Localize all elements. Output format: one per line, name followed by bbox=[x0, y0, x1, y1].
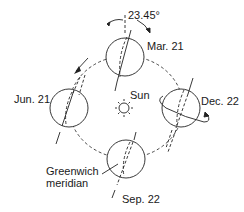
label-sep-22: Sep. 22 bbox=[122, 193, 160, 205]
globe-mar-21 bbox=[106, 15, 150, 91]
label-mar-21: Mar. 21 bbox=[147, 40, 184, 52]
greenwich-meridian-label-line1: Greenwich bbox=[46, 165, 99, 177]
globe-sep-22 bbox=[102, 132, 145, 198]
sun-icon bbox=[115, 99, 133, 117]
label-jun-21: Jun. 21 bbox=[14, 93, 50, 105]
label-dec-22: Dec. 22 bbox=[201, 95, 239, 107]
globe-jun-21 bbox=[50, 75, 88, 144]
globe-dec-22 bbox=[160, 78, 209, 152]
tilt-angle-label: 23.45° bbox=[128, 9, 160, 21]
greenwich-meridian-label-line2: meridian bbox=[46, 177, 88, 189]
sun-label: Sun bbox=[130, 89, 150, 101]
orbit-direction-arrow-icon bbox=[74, 58, 88, 74]
